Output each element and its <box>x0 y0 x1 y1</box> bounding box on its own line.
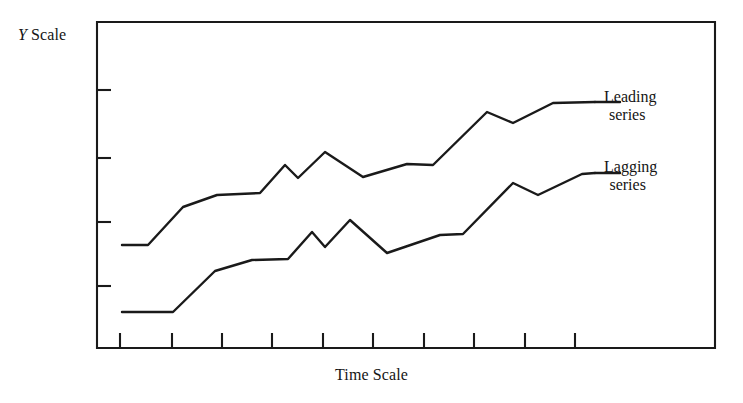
series-lines <box>122 102 595 312</box>
line-chart <box>0 0 743 403</box>
series-label-lagging: Lagging series <box>604 158 657 194</box>
series-label-leading: Leading series <box>604 88 656 124</box>
x-axis-ticks <box>120 333 575 348</box>
y-axis-label-text: Scale <box>27 26 66 43</box>
x-axis-label: Time Scale <box>0 366 743 384</box>
series-label-leading-line2: series <box>604 106 656 124</box>
series-line-lagging <box>122 173 595 312</box>
y-axis-ticks <box>97 90 111 286</box>
figure-container: Y Scale Time Scale Leading series Laggin… <box>0 0 743 403</box>
series-label-lagging-line1: Lagging <box>604 158 657 176</box>
series-label-leading-line1: Leading <box>604 88 656 106</box>
series-line-leading <box>122 102 595 245</box>
y-axis-label: Y Scale <box>18 26 66 44</box>
series-label-lagging-line2: series <box>604 176 657 194</box>
y-axis-label-symbol: Y <box>18 26 27 43</box>
